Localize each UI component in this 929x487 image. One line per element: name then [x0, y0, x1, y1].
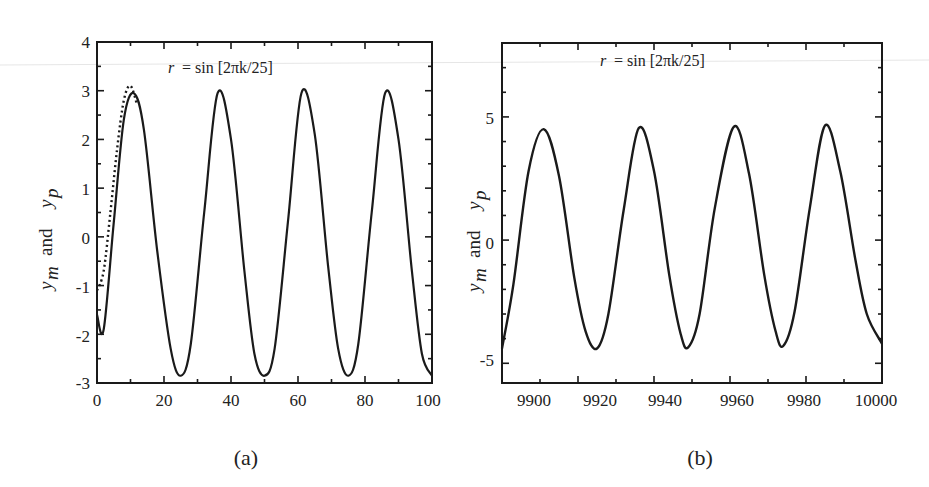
y-tick-label: -2: [76, 327, 90, 346]
y-label-symbol: y: [35, 199, 56, 210]
x-tick-label: 20: [156, 391, 173, 410]
y-tick-label: 3: [82, 82, 91, 101]
x-tick-label: 100: [415, 391, 441, 410]
x-tick-label: 9920: [583, 391, 617, 410]
y-label-symbol: y: [463, 201, 484, 212]
panel-b-x-tick-labels: 9900 9920 9940 9960 9980 10000: [517, 391, 897, 410]
panel-b-y-ticks: [502, 43, 882, 363]
y-label-sub-p: p: [41, 189, 62, 201]
x-tick-label: 0: [93, 391, 102, 410]
y-label-sub-m: m: [469, 268, 490, 282]
x-tick-label: 60: [290, 391, 307, 410]
y-tick-label: 2: [82, 131, 91, 150]
x-tick-label: 10000: [855, 391, 898, 410]
y-tick-label: 5: [486, 109, 495, 128]
annotation-lhs: r: [168, 59, 175, 76]
panel-b: 9900 9920 9940 9960 9980 10000 5 0 -5 y …: [463, 43, 897, 470]
panel-a-y-ticks: [97, 42, 432, 383]
panel-a-solid-line: [97, 89, 432, 376]
y-label-and: and: [463, 230, 484, 258]
y-tick-label: 1: [82, 180, 91, 199]
y-label-symbol: y: [35, 281, 56, 292]
panel-a-annotation: r = sin [2πk/25]: [168, 59, 273, 76]
panel-b-x-ticks: [502, 43, 882, 383]
y-label-sub-m: m: [41, 266, 62, 280]
y-tick-label: 4: [82, 33, 91, 52]
panel-a-x-ticks: [97, 42, 432, 383]
panel-b-solid-line: [502, 125, 882, 349]
panel-b-annotation: r = sin [2πk/25]: [600, 52, 705, 69]
y-tick-label: 0: [82, 229, 91, 248]
panel-a-x-tick-labels: 0 20 40 60 80 100: [93, 391, 441, 410]
x-tick-label: 9940: [648, 391, 682, 410]
annotation-rhs: = sin [2πk/25]: [614, 52, 705, 69]
x-tick-label: 9980: [787, 391, 821, 410]
panel-a: 0 20 40 60 80 100 4 3 2 1 0 -1 -2 -3 y m…: [35, 33, 441, 470]
y-label-and: and: [35, 228, 56, 256]
x-tick-label: 9960: [720, 391, 754, 410]
panel-b-caption: (b): [687, 445, 713, 470]
panel-a-y-axis-label: y m and y p: [35, 189, 62, 293]
y-label-sub-p: p: [469, 191, 490, 203]
panel-b-plot-frame: [502, 43, 882, 383]
panel-a-caption: (a): [234, 445, 258, 470]
x-tick-label: 9900: [517, 391, 551, 410]
panel-a-plot-frame: [97, 42, 432, 383]
annotation-lhs: r: [600, 52, 607, 69]
panel-a-y-tick-labels: 4 3 2 1 0 -1 -2 -3: [76, 33, 91, 393]
annotation-rhs: = sin [2πk/25]: [182, 59, 273, 76]
y-tick-label: -3: [76, 374, 90, 393]
y-label-symbol: y: [463, 283, 484, 294]
x-tick-label: 40: [223, 391, 240, 410]
x-tick-label: 80: [357, 391, 374, 410]
y-tick-label: -5: [480, 351, 494, 370]
y-tick-label: -1: [76, 278, 90, 297]
y-tick-label: 0: [486, 234, 495, 253]
figure-canvas: 0 20 40 60 80 100 4 3 2 1 0 -1 -2 -3 y m…: [0, 0, 929, 487]
